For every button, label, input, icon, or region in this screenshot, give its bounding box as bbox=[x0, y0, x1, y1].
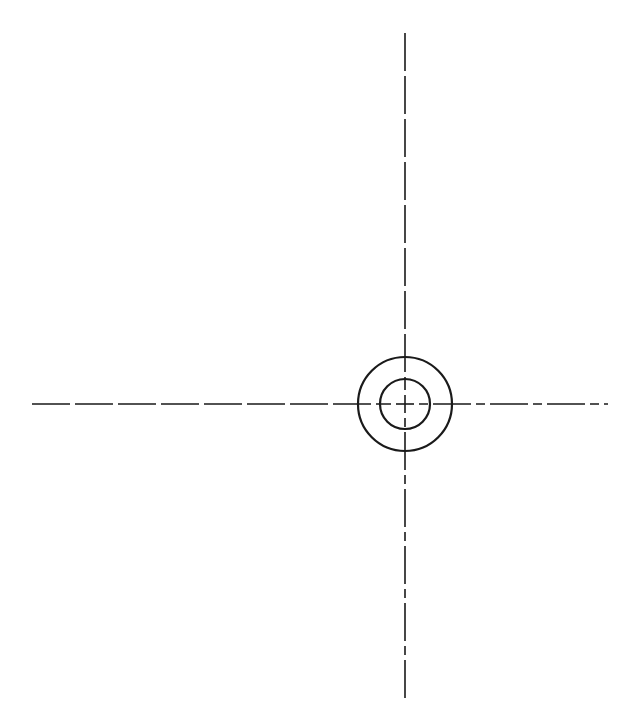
technical-drawing-canvas bbox=[0, 0, 642, 704]
drawing-viewport bbox=[0, 0, 642, 704]
